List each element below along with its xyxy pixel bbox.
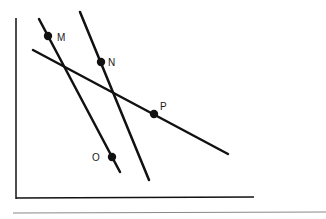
label-m: M — [57, 32, 65, 43]
label-n: N — [108, 57, 115, 68]
bottom-rule — [13, 212, 326, 213]
diagram-canvas: M N P O — [0, 0, 326, 219]
line-mo — [39, 19, 120, 172]
label-p: P — [160, 101, 167, 112]
line-p — [33, 50, 228, 154]
point-m — [44, 32, 52, 40]
point-p — [150, 110, 158, 118]
point-n — [97, 58, 105, 66]
point-o — [108, 153, 116, 161]
x-axis — [16, 197, 254, 198]
label-o: O — [92, 152, 100, 163]
